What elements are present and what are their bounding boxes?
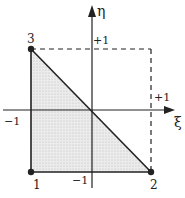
- node-2: [148, 169, 154, 175]
- node-3: [28, 46, 34, 52]
- eta-minus-one-label: −1: [72, 174, 88, 187]
- xi-minus-one-label: −1: [4, 115, 20, 128]
- eta-plus-one-label: +1: [93, 34, 109, 47]
- node-1: [28, 169, 34, 175]
- node-label-3: 3: [27, 32, 35, 46]
- node-label-2: 2: [150, 178, 158, 192]
- eta-arrow-icon: [88, 5, 96, 17]
- xi-plus-one-label: +1: [154, 91, 170, 104]
- triangle-element-diagram: 3 1 2 η ξ +1 +1 −1 −1: [0, 0, 185, 198]
- eta-axis-label: η: [97, 3, 105, 19]
- xi-arrow-icon: [164, 106, 175, 114]
- node-label-1: 1: [33, 178, 41, 192]
- xi-axis-label: ξ: [174, 114, 182, 130]
